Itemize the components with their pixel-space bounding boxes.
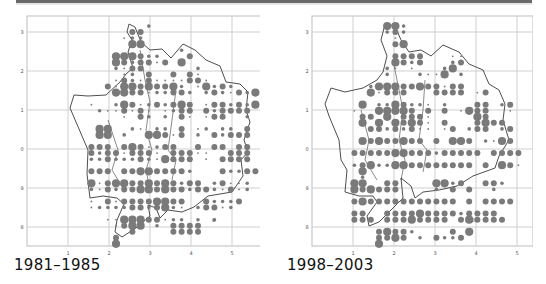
occurrence-dot <box>105 199 111 205</box>
occurrence-dot <box>458 217 464 223</box>
occurrence-dot <box>507 126 513 132</box>
occurrence-dot <box>401 59 407 65</box>
occurrence-dot <box>350 185 358 193</box>
occurrence-dot <box>375 240 383 248</box>
occurrence-dot <box>195 223 201 229</box>
x-tick-label: 5 <box>515 250 518 256</box>
occurrence-dot <box>228 186 234 192</box>
occurrence-dot <box>384 186 390 192</box>
occurrence-dot <box>401 229 407 235</box>
occurrence-dot <box>418 103 422 107</box>
occurrence-dot <box>392 180 398 186</box>
occurrence-dot <box>146 71 152 77</box>
occurrence-dot <box>474 120 480 126</box>
x-tick-label: 2 <box>107 250 110 256</box>
occurrence-dot <box>392 217 398 223</box>
occurrence-dot <box>417 217 423 223</box>
occurrence-dot <box>197 74 199 76</box>
occurrence-dot <box>392 41 398 47</box>
occurrence-dot <box>128 222 136 230</box>
occurrence-dot <box>213 188 217 192</box>
occurrence-dot <box>392 186 398 192</box>
occurrence-dot <box>400 40 408 48</box>
inner-boundary <box>419 80 427 172</box>
occurrence-dot <box>491 217 497 223</box>
occurrence-dot <box>400 107 408 115</box>
occurrence-dot <box>203 186 209 192</box>
occurrence-dot <box>162 144 168 150</box>
occurrence-dot <box>90 157 94 161</box>
occurrence-dot <box>409 108 415 114</box>
occurrence-dot <box>493 140 495 142</box>
occurrence-dot <box>443 103 447 107</box>
x-tick-label: 5 <box>230 250 233 256</box>
occurrence-dot <box>88 168 94 174</box>
occurrence-dot <box>483 90 489 96</box>
occurrence-dot <box>419 128 421 130</box>
occurrence-dot <box>170 199 176 205</box>
occurrence-dot <box>368 138 374 144</box>
occurrence-dot <box>236 156 242 162</box>
occurrence-dot <box>99 189 101 191</box>
occurrence-dot <box>483 126 489 132</box>
occurrence-dot <box>433 162 439 168</box>
occurrence-dot <box>139 36 143 40</box>
occurrence-dot <box>148 92 150 94</box>
occurrence-dot <box>195 144 201 150</box>
occurrence-dot <box>483 199 489 205</box>
occurrence-dot <box>154 186 160 192</box>
occurrence-dot <box>410 230 414 234</box>
occurrence-dot <box>500 182 504 186</box>
occurrence-dot <box>128 82 136 90</box>
occurrence-dot <box>146 59 152 65</box>
occurrence-dot <box>450 90 456 96</box>
occurrence-dot <box>238 182 240 184</box>
occurrence-dot <box>120 216 128 224</box>
occurrence-dot <box>170 186 176 192</box>
occurrence-dot <box>107 110 109 112</box>
occurrence-dot <box>172 109 176 113</box>
occurrence-dot <box>375 119 383 127</box>
occurrence-dot <box>195 78 201 84</box>
occurrence-dot <box>409 84 415 90</box>
y-tick-label: 3 <box>305 29 308 35</box>
occurrence-dot <box>115 219 117 221</box>
occurrence-dot <box>115 110 117 112</box>
occurrence-dot <box>146 150 152 156</box>
occurrence-dot <box>87 179 95 187</box>
occurrence-dot <box>145 167 153 175</box>
occurrence-dot <box>449 64 457 72</box>
occurrence-dot <box>213 200 217 204</box>
occurrence-dot <box>129 102 135 108</box>
occurrence-dot <box>458 235 464 241</box>
occurrence-dot <box>138 205 144 211</box>
occurrence-dot <box>244 126 250 132</box>
occurrence-dot <box>105 156 111 162</box>
occurrence-dot <box>170 223 176 229</box>
occurrence-dot <box>178 58 186 66</box>
occurrence-dot <box>410 103 414 107</box>
occurrence-dot <box>436 74 438 76</box>
occurrence-dot <box>138 199 144 205</box>
occurrence-dot <box>154 84 160 90</box>
occurrence-dot <box>179 229 185 235</box>
occurrence-dot <box>483 211 489 217</box>
occurrence-dot <box>123 152 125 154</box>
occurrence-dot <box>115 86 117 88</box>
occurrence-dot <box>121 108 127 114</box>
occurrence-dot <box>173 80 175 82</box>
occurrence-dot <box>154 180 160 186</box>
occurrence-dot <box>170 90 176 96</box>
occurrence-dot <box>458 180 464 186</box>
occurrence-dot <box>220 144 226 150</box>
occurrence-dot <box>155 127 159 131</box>
occurrence-dot <box>491 120 497 126</box>
occurrence-dot <box>450 84 456 90</box>
occurrence-dot <box>123 37 125 39</box>
occurrence-dot <box>384 150 390 156</box>
occurrence-dot <box>180 218 184 222</box>
occurrence-dot <box>213 182 217 186</box>
occurrence-dot <box>491 180 497 186</box>
occurrence-dot <box>507 150 513 156</box>
occurrence-dot <box>220 102 226 108</box>
